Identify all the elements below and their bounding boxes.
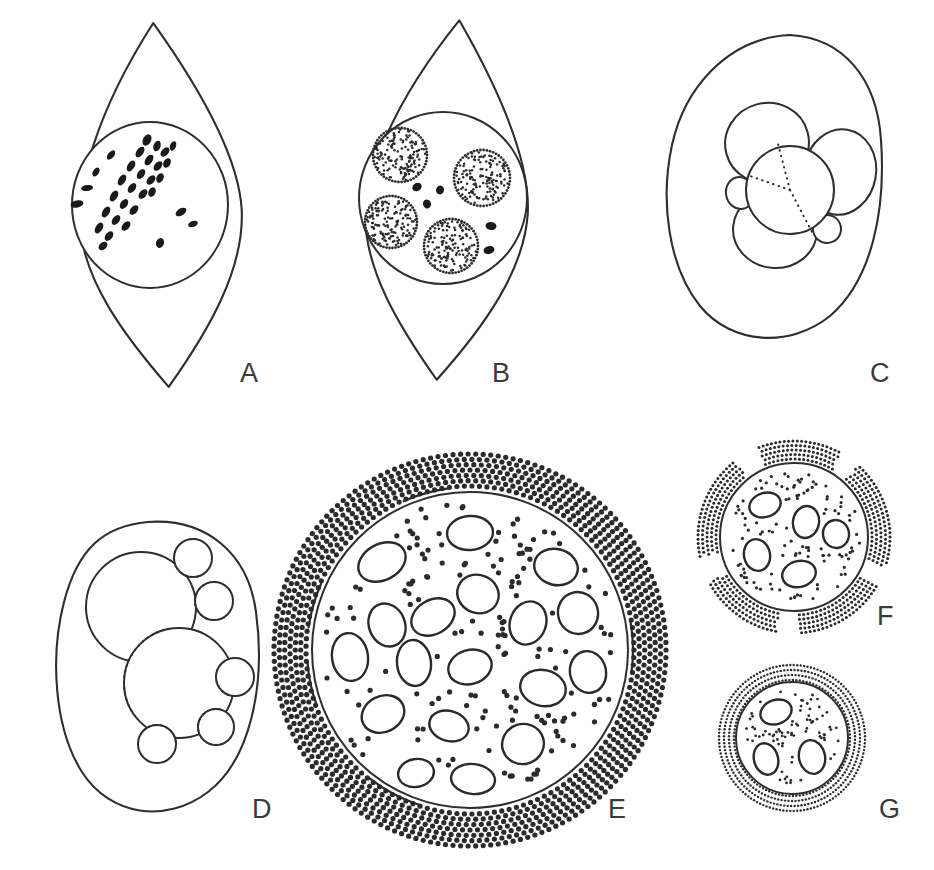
panel-label-b: B (492, 358, 511, 388)
panel-label-e: E (608, 794, 627, 824)
panel-label-f: F (877, 601, 894, 631)
panel-label-d: D (252, 794, 272, 824)
figure-root: ABCDEFG (0, 0, 934, 870)
panel-label-a: A (240, 358, 259, 388)
nucleus-a (72, 122, 228, 288)
bud-sphere (216, 658, 254, 696)
panel-g (718, 664, 866, 812)
cell-sphere-g (736, 682, 848, 794)
panel-label-g: G (879, 794, 901, 824)
figure-canvas: ABCDEFG (0, 0, 934, 870)
panel-d (56, 522, 259, 812)
panel-label-c: C (870, 358, 890, 388)
bud-sphere (174, 539, 212, 577)
